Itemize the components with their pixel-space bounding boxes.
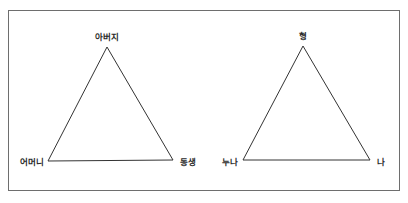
- triangle-right: 형 누나 나: [222, 31, 385, 167]
- family-diagram: 아버지 어머니 동생 형 누나 나: [0, 0, 408, 203]
- label-mother: 어머니: [20, 157, 44, 167]
- label-younger-sibling: 동생: [180, 157, 196, 167]
- label-older-brother: 형: [299, 31, 307, 41]
- label-older-sister: 누나: [222, 157, 238, 167]
- label-father: 아버지: [95, 32, 119, 42]
- triangle-right-shape: [243, 46, 370, 160]
- label-me: 나: [377, 157, 385, 167]
- triangle-left-shape: [48, 47, 173, 161]
- triangle-left: 아버지 어머니 동생: [20, 32, 196, 167]
